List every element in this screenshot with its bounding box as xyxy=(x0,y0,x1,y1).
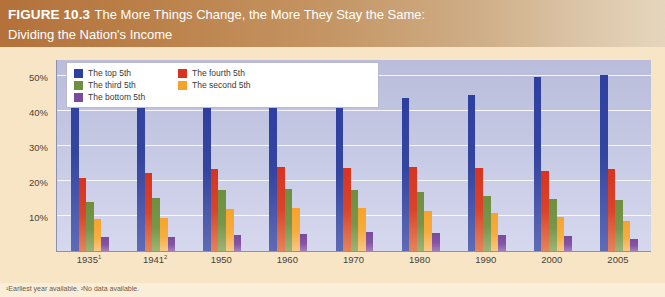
bar xyxy=(145,173,153,251)
legend-item[interactable]: The bottom 5th xyxy=(74,92,178,102)
bar xyxy=(94,219,102,251)
bar xyxy=(549,199,557,251)
bar xyxy=(615,200,623,251)
bar xyxy=(211,169,219,251)
y-tick-label-20: 20% xyxy=(29,177,48,188)
bar xyxy=(491,213,499,251)
x-tick-label: 1990 xyxy=(475,254,496,265)
legend-label: The fourth 5th xyxy=(192,68,245,78)
legend-swatch-icon xyxy=(74,93,83,102)
x-tick-label: 2000 xyxy=(541,254,562,265)
bar xyxy=(226,209,234,251)
legend-swatch-icon xyxy=(74,81,83,90)
bar xyxy=(409,167,417,251)
bar xyxy=(557,217,565,251)
legend-item[interactable]: The third 5th xyxy=(74,80,178,90)
bar xyxy=(534,77,542,251)
legend-item[interactable]: The fourth 5th xyxy=(178,68,282,78)
y-tick-label-40: 40% xyxy=(29,107,48,118)
legend-swatch-icon xyxy=(178,81,187,90)
bar xyxy=(292,208,300,251)
bar xyxy=(541,171,549,251)
figure-subtitle: Dividing the Nation's Income xyxy=(8,26,659,44)
y-tick-label-10: 10% xyxy=(29,212,48,223)
legend-label: The second 5th xyxy=(192,80,251,90)
bar xyxy=(475,168,483,251)
x-tick-label: 2005 xyxy=(607,254,628,265)
x-tick-label: 1950 xyxy=(211,254,232,265)
figure-header-text: FIGURE 10.3 The More Things Change, the … xyxy=(8,3,659,43)
legend-label: The top 5th xyxy=(88,68,131,78)
bar xyxy=(336,108,344,251)
bar xyxy=(218,190,226,251)
bar xyxy=(366,232,374,251)
bar xyxy=(630,239,638,251)
legend-label: The bottom 5th xyxy=(88,92,145,102)
y-tick-label-50: 50% xyxy=(29,72,48,83)
bar-group xyxy=(402,60,440,251)
legend-swatch-icon xyxy=(178,69,187,78)
bar xyxy=(234,235,242,251)
bar xyxy=(608,169,616,251)
figure-footnote: ¹Earliest year available. ²No data avail… xyxy=(6,285,139,292)
bar xyxy=(300,234,308,251)
bar xyxy=(79,178,87,251)
bar xyxy=(160,218,168,251)
y-axis: Percentage 10%20%30%40%50% xyxy=(0,60,54,252)
bar xyxy=(483,196,491,252)
bar xyxy=(277,167,285,251)
bar xyxy=(424,211,432,251)
legend-item[interactable]: The top 5th xyxy=(74,68,178,78)
bar xyxy=(285,189,293,251)
bar xyxy=(269,107,277,251)
x-axis: 19351194121950196019701980199020002005 xyxy=(56,254,651,274)
bar xyxy=(623,221,631,251)
bar xyxy=(343,168,351,251)
bar xyxy=(564,236,572,251)
bar xyxy=(351,190,359,251)
y-tick-label-30: 30% xyxy=(29,142,48,153)
bar xyxy=(600,75,608,251)
chart-legend: The top 5thThe fourth 5thThe third 5thTh… xyxy=(66,62,379,108)
x-tick-label: 19351 xyxy=(77,254,101,265)
bar xyxy=(358,208,366,251)
bar xyxy=(203,102,211,251)
bar xyxy=(417,192,425,251)
bar-group xyxy=(468,60,506,251)
x-tick-label: 1960 xyxy=(277,254,298,265)
bar xyxy=(101,237,109,251)
x-tick-label: 1970 xyxy=(343,254,364,265)
bar xyxy=(498,235,506,251)
x-tick-label: 1980 xyxy=(409,254,430,265)
bar-group xyxy=(534,60,572,251)
figure-number: FIGURE 10.3 xyxy=(8,7,90,22)
legend-item[interactable]: The second 5th xyxy=(178,80,282,90)
figure-title: The More Things Change, the More They St… xyxy=(95,7,425,22)
bar xyxy=(432,233,440,251)
bar-group xyxy=(600,60,638,251)
bar xyxy=(168,237,176,251)
x-tick-label: 19412 xyxy=(143,254,167,265)
legend-swatch-icon xyxy=(74,69,83,78)
bar xyxy=(86,202,94,251)
bar xyxy=(402,98,410,251)
bar xyxy=(468,95,476,251)
figure-header-banner: FIGURE 10.3 The More Things Change, the … xyxy=(0,0,665,47)
legend-label: The third 5th xyxy=(88,80,136,90)
bar xyxy=(152,198,160,251)
